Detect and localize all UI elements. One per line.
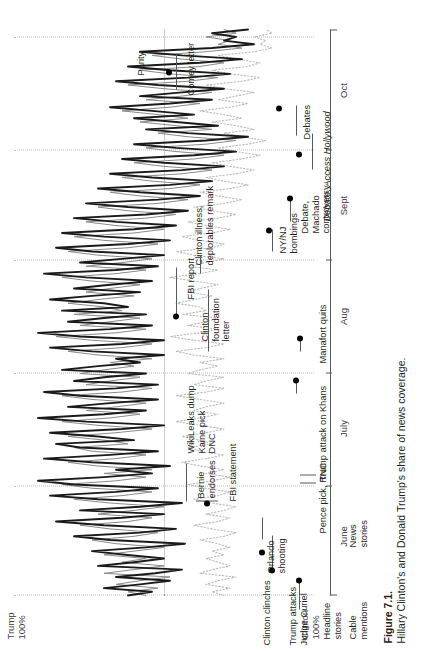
key-headline-stories-line1: Headline xyxy=(322,602,333,639)
x-tick-label-aug: Aug xyxy=(338,281,349,351)
event-marker-dot xyxy=(296,151,302,157)
leader-line xyxy=(296,105,297,135)
event-marker-dot xyxy=(293,377,299,383)
annotation-cfl-line3: letter xyxy=(221,298,232,341)
key-headline-stories-line2: stories xyxy=(333,602,344,639)
annotation-clinton-clinches: Clinton clinches xyxy=(262,580,273,645)
parity-label: Parity xyxy=(136,51,147,75)
annotation-nynj-line1: NY/NJ xyxy=(278,213,289,253)
event-marker-dot xyxy=(276,105,282,111)
x-tick-label-oct: Oct xyxy=(338,55,349,125)
annotation-ny-nj-bombings: NY/NJ bombings xyxy=(278,213,299,253)
figure-page: Trump 100% Clinton 100% Parity Headline … xyxy=(0,0,428,651)
annotation-comey-letter: Comey letter xyxy=(186,42,197,95)
leader-line xyxy=(262,517,263,539)
leader-line xyxy=(299,581,300,609)
annotation-bernie-endorses-line2: endorses xyxy=(207,460,218,498)
annotation-clinton-foundation-letter: Clinton foundation letter xyxy=(200,298,232,341)
key-news-stories-line2: stories xyxy=(359,520,370,547)
y-axis-bottom-label-line2: 100% xyxy=(311,609,322,639)
annotation-cid-line1: Clinton illness, xyxy=(194,185,205,265)
annotation-cid-line2: deplorables remark xyxy=(205,185,216,265)
annotation-trump-attacks-curiel-line1: Trump attacks xyxy=(288,586,299,645)
annotation-wikileaks-line3: DNC xyxy=(207,385,218,453)
event-marker-dot xyxy=(173,313,179,319)
event-marker-dot xyxy=(297,335,303,341)
annotation-access-hollywood: Debate, Access Hollywood xyxy=(322,111,333,221)
event-marker-dot xyxy=(266,227,272,233)
y-axis-top-label: Trump 100% xyxy=(6,612,27,639)
leader-line xyxy=(300,482,316,483)
event-marker-dot xyxy=(166,69,172,75)
annotation-machado-line1: Debate, xyxy=(300,185,311,233)
annotation-trump-attacks-curiel-line2: Judge Curiel xyxy=(299,586,310,645)
annotation-orlando-shooting: Orlando shooting xyxy=(266,538,287,573)
series-headline-stories xyxy=(14,29,314,595)
annotation-bernie-endorses: Bernie endorses xyxy=(196,460,217,498)
x-axis-tick xyxy=(326,259,332,260)
annotation-fbi-statement: FBI statement xyxy=(228,443,239,501)
annotation-clinton-illness-deplorables: Clinton illness, deplorables remark xyxy=(194,185,215,265)
annotation-orlando-shooting-line2: shooting xyxy=(277,538,288,573)
annotation-wikileaks-line1: WikiLeaks dump xyxy=(186,385,197,453)
annotation-manafort-quits: Manafort quits xyxy=(318,304,329,363)
key-cable-mentions-line2: mentions xyxy=(359,601,370,639)
leader-line xyxy=(176,267,177,315)
key-cable-mentions-line1: Cable xyxy=(348,601,359,639)
plot-area xyxy=(14,29,314,595)
figure-number: Figure 7.1. xyxy=(382,43,394,643)
annotation-wikileaks-kaine-dnc: WikiLeaks dump Kaine pick DNC xyxy=(186,385,218,453)
annotation-cfl-line1: Clinton xyxy=(200,298,211,341)
annotation-orlando-shooting-line1: Orlando xyxy=(266,538,277,573)
annotation-trump-attack-khans: Trump attack on Khans xyxy=(318,385,329,481)
x-tick-label-june: June xyxy=(338,501,349,571)
annotation-debates: Debates xyxy=(302,104,313,139)
leader-line xyxy=(272,229,273,251)
rotated-figure-frame: Trump 100% Clinton 100% Parity Headline … xyxy=(0,0,428,651)
figure-caption-text: Hillary Clinton's and Donald Trump's sha… xyxy=(395,43,407,643)
event-marker-dot xyxy=(296,577,302,583)
leader-line xyxy=(200,255,201,273)
leader-line xyxy=(186,463,187,501)
key-news-stories: News stories xyxy=(348,520,369,547)
key-news-stories-line1: News xyxy=(348,520,359,547)
x-tick-label-july: July xyxy=(338,393,349,463)
x-tick-label-sept: Sept xyxy=(338,170,349,240)
leader-line xyxy=(176,53,177,89)
y-axis-top-label-line2: 100% xyxy=(17,612,28,639)
event-marker-dot xyxy=(204,500,210,506)
annotation-cfl-line2: foundation xyxy=(211,298,222,341)
x-axis-cap-right xyxy=(330,29,337,30)
annotation-wikileaks-line2: Kaine pick xyxy=(197,385,208,453)
figure-caption: Figure 7.1. Hillary Clinton's and Donald… xyxy=(382,43,407,643)
leader-line xyxy=(300,474,316,475)
event-marker-dot xyxy=(287,195,293,201)
key-headline-stories: Headline stories xyxy=(322,602,343,639)
annotation-machado-line2: Machado xyxy=(311,185,322,233)
key-cable-mentions: Cable mentions xyxy=(348,601,369,639)
leader-line xyxy=(208,289,209,351)
x-axis-cap-left xyxy=(330,594,337,595)
x-axis-tick xyxy=(326,372,332,373)
annotation-bernie-endorses-line1: Bernie xyxy=(196,460,207,498)
event-marker-dot xyxy=(259,549,265,555)
